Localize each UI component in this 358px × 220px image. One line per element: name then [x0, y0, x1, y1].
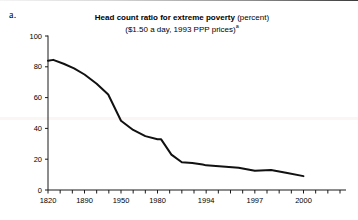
y-tick-label: 100 [29, 32, 42, 41]
x-tick-label: 1950 [113, 196, 130, 205]
poverty-headcount-line [48, 60, 304, 176]
x-tick-label: 1820 [40, 196, 57, 205]
x-tick-label: 1997 [246, 196, 263, 205]
poverty-headcount-figure: a. Head count ratio for extreme poverty … [0, 0, 358, 220]
y-tick-label: 40 [34, 124, 42, 133]
y-tick-label: 60 [34, 93, 42, 102]
x-tick-label: 1994 [198, 196, 215, 205]
y-tick-label: 80 [34, 62, 42, 71]
x-axis-tick-marks [48, 190, 340, 194]
x-tick-label: 1890 [76, 196, 93, 205]
x-axis-tick-labels: 1820189019501980199419972000 [40, 196, 312, 205]
x-tick-label: 2000 [295, 196, 312, 205]
y-tick-label: 20 [34, 155, 42, 164]
chart-plot-area: 020406080100 182018901950198019941997200… [0, 0, 358, 220]
x-tick-label: 1980 [149, 196, 166, 205]
y-axis-tick-labels: 020406080100 [29, 32, 42, 195]
y-tick-label: 0 [38, 186, 42, 195]
